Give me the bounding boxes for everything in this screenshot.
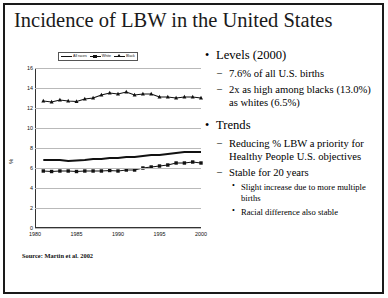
bullet-levels-heading-text: Levels (2000) [216,48,286,62]
series-marker [42,169,45,172]
legend-line-icon [61,56,72,58]
chart-y-tick-label: 14 [11,85,33,91]
series-marker [116,169,119,172]
chart-gridline [35,228,201,229]
chart-y-tick-label: 16 [11,65,33,71]
bullet-levels-1-text: 7.6% of all U.S. births [229,68,324,79]
chart-series-black [41,90,203,104]
chart-series-white [42,160,203,173]
bullet-trends-2: – Stable for 20 years [203,166,379,179]
chart-x-tick-label: 1985 [71,231,83,237]
chart-y-tick-label: 6 [11,165,33,171]
series-line [43,152,201,161]
series-marker [191,160,194,163]
legend-square-marker-icon [90,56,101,58]
lbw-trend-chart: All races White Black % 1614121086420 19… [8,48,206,263]
chart-legend: All races White Black [58,52,138,61]
bullet-glyph-icon: • [232,181,235,192]
chart-y-tick-label: 12 [11,105,33,111]
series-marker [124,90,128,94]
bullet-trends-2a-text: Slight increase due to more multiple bir… [241,182,366,203]
bullet-trends-1: – Reducing % LBW a priority for Healthy … [203,137,379,163]
chart-gridline [35,208,201,209]
chart-y-tick-label: 8 [11,145,33,151]
bullet-glyph-icon: • [232,206,235,217]
chart-y-tick-label: 4 [11,185,33,191]
slide: Incidence of LBW in the United States Al… [0,0,388,298]
series-marker [183,161,186,164]
legend-label-white: White [102,54,111,59]
bullet-content: • Levels (2000) – 7.6% of all U.S. birth… [203,48,379,218]
chart-gridline [35,168,201,169]
legend-triangle-marker-icon [114,56,125,58]
chart-gridline [35,128,201,129]
bullet-trends-2b: • Racial difference also stable [203,207,379,218]
series-marker [100,169,103,172]
series-marker [58,169,61,172]
chart-x-tick-label: 2000 [195,231,207,237]
legend-label-black: Black [126,54,135,59]
bullet-trends-heading: • Trends [203,118,379,134]
dash-glyph-icon: – [217,66,222,79]
dash-glyph-icon: – [217,136,222,149]
series-marker [67,169,70,172]
series-marker [91,169,94,172]
bullet-levels-2-text: 2x as high among blacks (13.0%) as white… [229,84,371,108]
bullet-trends-2-text: Stable for 20 years [229,167,309,178]
bullet-glyph-icon: • [205,48,209,64]
chart-gridline [35,188,201,189]
chart-axes: 19801985199019952000 [35,68,201,228]
legend-item-all-races: All races [61,54,87,59]
chart-series-all-races [43,152,201,161]
legend-item-white: White [90,54,111,59]
series-marker [174,161,177,164]
bullet-trends-2a: • Slight increase due to more multiple b… [203,182,379,204]
series-marker [108,169,111,172]
bullet-levels-2: – 2x as high among blacks (13.0%) as whi… [203,83,379,109]
legend-label-all-races: All races [73,54,87,59]
bullet-levels-heading: • Levels (2000) [203,48,379,64]
chart-gridline [35,148,201,149]
chart-x-tick-label: 1980 [29,231,41,237]
chart-gridline [35,88,201,89]
chart-gridline [35,108,201,109]
chart-source-note: Source: Martin et al. 2002 [22,252,93,259]
dash-glyph-icon: – [217,165,222,178]
chart-y-tick-label: 2 [11,205,33,211]
chart-y-axis-ticks: 1614121086420 [11,68,33,228]
series-marker [75,170,78,173]
series-marker [166,163,169,166]
bullet-levels-1: – 7.6% of all U.S. births [203,67,379,80]
legend-item-black: Black [114,54,135,59]
chart-gridline [35,68,201,69]
bullet-glyph-icon: • [205,118,209,134]
page-title: Incidence of LBW in the United States [14,8,374,32]
chart-y-tick-label: 10 [11,125,33,131]
dash-glyph-icon: – [217,82,222,95]
series-line [43,92,201,102]
bullet-trends-1-text: Reducing % LBW a priority for Healthy Pe… [229,138,364,162]
bullet-trends-heading-text: Trends [216,118,251,132]
bullet-trends-2b-text: Racial difference also stable [241,207,338,217]
chart-x-tick-label: 1990 [112,231,124,237]
chart-plot-area: % 1614121086420 19801985199019952000 [8,68,206,263]
series-marker [50,170,53,173]
series-marker [83,169,86,172]
chart-x-tick-label: 1995 [154,231,166,237]
